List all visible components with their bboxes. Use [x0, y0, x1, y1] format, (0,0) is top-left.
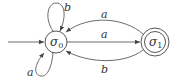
edge-s1-s0-b — [66, 50, 143, 61]
edge-s0-s1-a-label: a — [101, 28, 108, 41]
state-sigma-1: σ1 — [141, 28, 169, 56]
self-loop-a-edge — [36, 53, 53, 76]
self-loop-a-label: a — [27, 66, 34, 79]
edge-s1-s0-a-label: a — [101, 8, 108, 21]
self-loop-b-edge — [48, 3, 64, 31]
self-loop-b-label: b — [64, 1, 71, 14]
edge-s1-s0-b-label: b — [101, 63, 108, 76]
automaton-diagram: σ0 σ1 b a a a b — [0, 0, 176, 81]
state-sigma-0: σ0 — [45, 31, 67, 53]
